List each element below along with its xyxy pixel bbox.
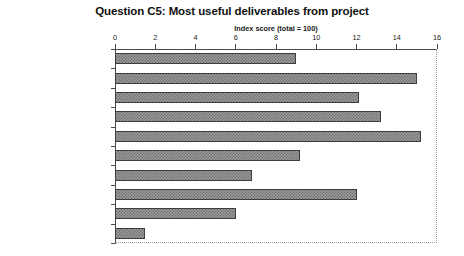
x-axis-tick bbox=[195, 44, 196, 49]
x-axis-tick-label: 6 bbox=[224, 33, 248, 42]
bar bbox=[115, 111, 381, 122]
x-axis-title: Index score (total = 100) bbox=[115, 24, 437, 33]
x-axis-tick bbox=[155, 44, 156, 49]
y-axis-tick bbox=[111, 224, 116, 225]
bar bbox=[115, 92, 359, 103]
bar bbox=[115, 73, 417, 84]
bar bbox=[115, 131, 421, 142]
y-axis-tick bbox=[111, 49, 116, 50]
x-axis-tick bbox=[356, 44, 357, 49]
x-axis-tick bbox=[276, 44, 277, 49]
bar bbox=[115, 150, 300, 161]
x-axis-tick bbox=[437, 44, 438, 49]
y-axis-tick bbox=[111, 204, 116, 205]
x-axis-tick-label: 8 bbox=[264, 33, 288, 42]
x-axis-tick-label: 16 bbox=[425, 33, 449, 42]
y-axis-tick bbox=[111, 68, 116, 69]
bar bbox=[115, 189, 357, 200]
x-axis-tick bbox=[235, 44, 236, 49]
y-axis-tick bbox=[111, 88, 116, 89]
x-axis-tick bbox=[316, 44, 317, 49]
x-axis-tick-label: 10 bbox=[304, 33, 328, 42]
bar bbox=[115, 208, 236, 219]
bar bbox=[115, 228, 145, 239]
y-axis-tick bbox=[111, 243, 116, 244]
y-axis-tick bbox=[111, 127, 116, 128]
x-axis-tick bbox=[396, 44, 397, 49]
x-axis-tick-label: 14 bbox=[385, 33, 409, 42]
y-axis-tick bbox=[111, 165, 116, 166]
y-axis-tick bbox=[111, 107, 116, 108]
y-axis-tick bbox=[111, 185, 116, 186]
chart-title: Question C5: Most useful deliverables fr… bbox=[0, 5, 464, 17]
bar bbox=[115, 53, 296, 64]
bar-chart: Question C5: Most useful deliverables fr… bbox=[0, 0, 464, 256]
x-axis-tick-label: 12 bbox=[345, 33, 369, 42]
y-axis-tick bbox=[111, 146, 116, 147]
bar bbox=[115, 170, 252, 181]
x-axis-tick-label: 2 bbox=[143, 33, 167, 42]
x-axis-tick-label: 0 bbox=[103, 33, 127, 42]
x-axis-tick-label: 4 bbox=[184, 33, 208, 42]
